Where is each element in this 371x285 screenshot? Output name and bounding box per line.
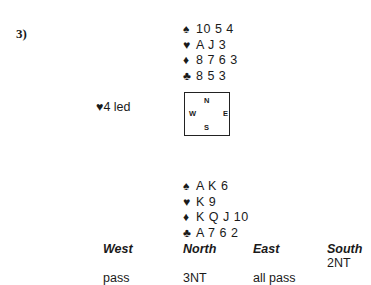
north-diamonds: ♦8 7 6 3: [183, 53, 238, 69]
problem-number: 3): [16, 26, 27, 42]
auction-header-north: North: [183, 242, 216, 256]
spade-icon: ♠: [183, 179, 196, 195]
north-hearts: ♥A J 3: [183, 38, 238, 54]
heart-icon: ♥: [183, 195, 196, 211]
compass-east: E: [223, 109, 228, 118]
south-diamonds: ♦K Q J 10: [183, 210, 249, 226]
north-clubs: ♣8 5 3: [183, 69, 238, 85]
compass-north: N: [204, 96, 209, 105]
compass-south: S: [204, 123, 209, 132]
auction-bid-north-2: 3NT: [183, 271, 207, 285]
auction-header-south: South: [327, 242, 362, 256]
auction-header-west: West: [103, 242, 133, 256]
south-spades: ♠A K 6: [183, 179, 249, 195]
diamond-icon: ♦: [183, 210, 196, 226]
auction-bid-east-2: all pass: [253, 271, 295, 285]
diamond-icon: ♦: [183, 53, 196, 69]
heart-icon: ♥: [183, 38, 196, 54]
spade-icon: ♠: [183, 22, 196, 38]
south-clubs: ♣A 7 6 2: [183, 226, 249, 242]
opening-lead: ♥4 led: [96, 100, 131, 114]
south-hearts: ♥K 9: [183, 195, 249, 211]
north-hand: ♠10 5 4 ♥A J 3 ♦8 7 6 3 ♣8 5 3: [183, 22, 238, 84]
south-hand: ♠A K 6 ♥K 9 ♦K Q J 10 ♣A 7 6 2: [183, 179, 249, 241]
compass-west: W: [189, 109, 196, 118]
club-icon: ♣: [183, 69, 196, 85]
cropped-previous-text: [0, 0, 371, 4]
club-icon: ♣: [183, 226, 196, 242]
auction-bid-west-2: pass: [103, 271, 129, 285]
compass-box: N W E S: [184, 92, 230, 136]
north-spades: ♠10 5 4: [183, 22, 238, 38]
auction-bid-south-1: 2NT: [327, 256, 351, 270]
auction-header-east: East: [253, 242, 279, 256]
